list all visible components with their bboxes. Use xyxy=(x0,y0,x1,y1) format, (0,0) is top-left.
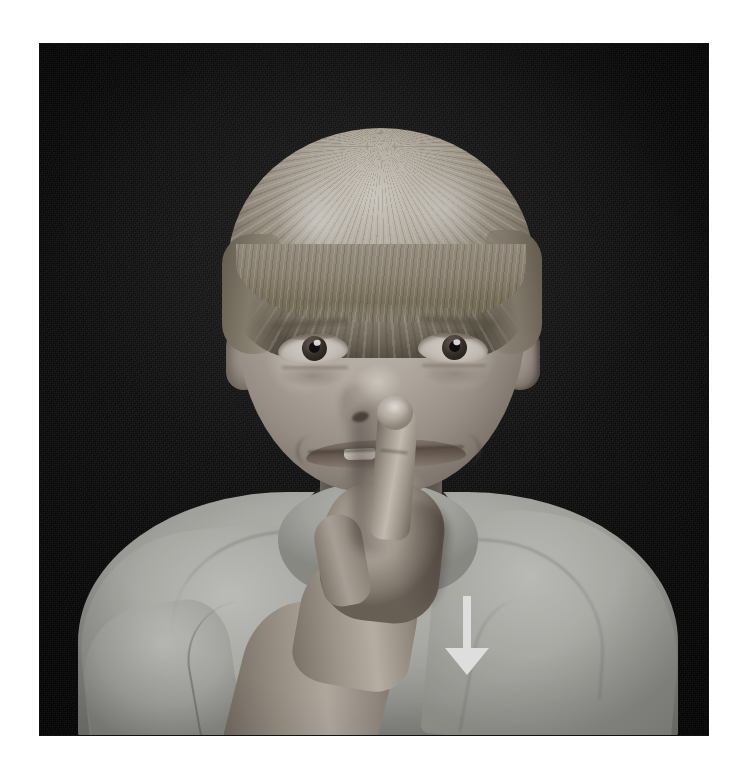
smile-crease-right xyxy=(454,434,481,466)
lower-lid-line-right xyxy=(422,364,486,367)
hair-bangs xyxy=(236,244,526,322)
photo-subject xyxy=(40,44,708,735)
bangs-strand-texture xyxy=(236,244,526,322)
asl-sign-photograph xyxy=(40,44,708,735)
lower-lid-line-left xyxy=(282,366,348,369)
downward-motion-arrow xyxy=(437,596,497,676)
page-root xyxy=(0,0,738,774)
fingernail xyxy=(384,400,408,420)
smile-crease-left xyxy=(296,436,321,466)
